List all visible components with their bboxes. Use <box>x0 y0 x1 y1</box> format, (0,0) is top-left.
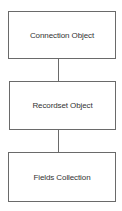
recordset-object-node: Recordset Object <box>9 81 116 130</box>
node-label: Recordset Object <box>32 101 92 110</box>
connector-connection-to-recordset <box>58 59 59 81</box>
connection-object-node: Connection Object <box>8 11 116 59</box>
node-label: Fields Collection <box>34 173 91 182</box>
node-label: Connection Object <box>30 31 94 40</box>
fields-collection-node: Fields Collection <box>8 152 116 202</box>
connector-recordset-to-fields <box>58 130 59 152</box>
